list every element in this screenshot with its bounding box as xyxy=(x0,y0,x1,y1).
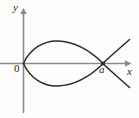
x-axis-label: x xyxy=(127,66,132,77)
node-point-label: a xyxy=(99,64,105,75)
branch-upper-right-curve xyxy=(103,40,130,64)
loop-lower-curve xyxy=(24,64,104,87)
curve-plot-svg xyxy=(0,0,139,118)
y-axis xyxy=(20,8,27,113)
y-axis-label: y xyxy=(13,2,18,13)
loop-upper-curve xyxy=(24,41,104,64)
branch-lower-right-curve xyxy=(103,64,130,88)
figure-canvas: y x 0 a xyxy=(0,0,139,118)
y-axis-arrowhead xyxy=(20,8,27,14)
origin-label: 0 xyxy=(14,63,20,74)
